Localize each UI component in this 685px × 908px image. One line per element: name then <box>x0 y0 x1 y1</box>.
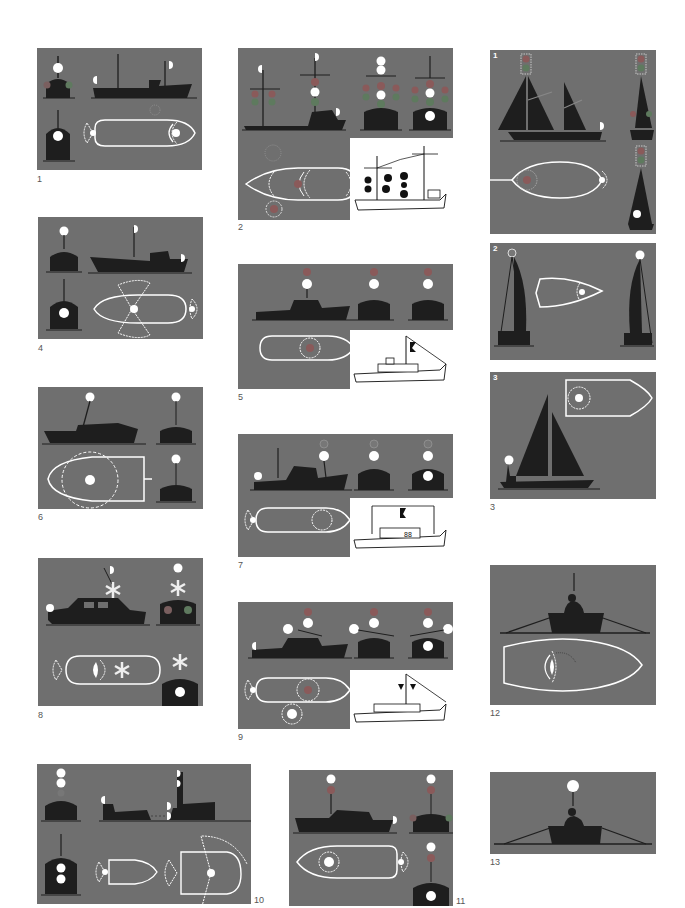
figure-2-number: 2 <box>238 222 243 232</box>
figure-4-panel <box>38 217 203 339</box>
figure-8-panel <box>38 558 203 706</box>
figure-1-panel <box>37 48 202 170</box>
svg-text:88: 88 <box>404 531 412 538</box>
figure-2-line-drawing <box>350 138 453 220</box>
figure-3-subpanel-1: 1 <box>490 50 656 234</box>
figure-1-illustration <box>37 48 202 170</box>
figure-7-line-drawing: 88 <box>350 498 453 557</box>
flashing-light-icon <box>106 582 120 598</box>
figure-5-panel <box>238 264 453 389</box>
figure-3-subpanel-3: 3 <box>490 372 656 499</box>
figure-1-number: 1 <box>37 174 42 184</box>
all-round-white-light-icon <box>567 780 579 792</box>
figure-12-panel <box>490 565 656 705</box>
figure-8-number: 8 <box>38 710 43 720</box>
figure-10-number: 10 <box>254 895 264 905</box>
figure-7-number: 7 <box>238 560 243 570</box>
figure-6-panel <box>38 387 203 509</box>
figure-9-number: 9 <box>238 732 243 742</box>
figure-7-panel: 88 <box>238 434 453 557</box>
figure-11-number: 11 <box>456 896 465 906</box>
masthead-light-icon <box>53 63 63 73</box>
figure-6-number: 6 <box>38 512 43 522</box>
figure-10-panel <box>37 764 251 904</box>
figure-3-subpanel-2: 2 <box>490 243 656 360</box>
figure-3-number: 3 <box>490 502 495 512</box>
figure-2-panel <box>238 48 453 220</box>
figure-4-number: 4 <box>38 343 43 353</box>
figure-5-line-drawing <box>350 330 453 389</box>
figure-5-number: 5 <box>238 392 243 402</box>
figure-9-panel <box>238 602 453 729</box>
figure-12-number: 12 <box>490 708 500 718</box>
figure-11-panel <box>289 770 453 906</box>
figure-9-line-drawing <box>350 670 453 729</box>
figure-13-number: 13 <box>490 857 500 867</box>
figure-13-panel <box>490 772 656 854</box>
